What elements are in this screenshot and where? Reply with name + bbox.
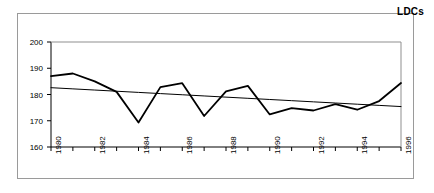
y-axis-tick-label: 190	[21, 64, 43, 73]
data-line-series	[51, 74, 401, 123]
x-axis-tick-label: 1996	[404, 136, 413, 154]
x-axis-tick-label: 1994	[360, 136, 369, 154]
x-axis-tick-label: 1986	[185, 136, 194, 154]
x-axis-tick-label: 1990	[273, 136, 282, 154]
y-axis-tick-label: 160	[21, 143, 43, 152]
y-axis-tick-label: 180	[21, 90, 43, 99]
chart-plot-area	[0, 0, 434, 193]
x-axis-tick-label: 1984	[142, 136, 151, 154]
x-axis-tick-label: 1980	[54, 136, 63, 154]
x-axis-tick-label: 1988	[229, 136, 238, 154]
x-axis-tick-label: 1982	[98, 136, 107, 154]
y-axis-tick-label: 200	[21, 38, 43, 47]
x-axis-tick-label: 1992	[317, 136, 326, 154]
y-axis-tick-label: 170	[21, 116, 43, 125]
